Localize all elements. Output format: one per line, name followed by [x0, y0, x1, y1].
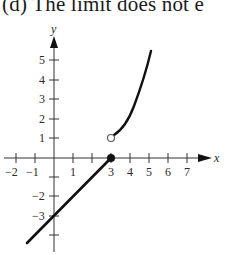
- graph: −2 −1 1 3 4 5 6 7 x 5 4 3 2 1 −2 −3 y: [0, 0, 232, 254]
- x-axis-label: x: [213, 151, 220, 165]
- x-tick-label: 6: [165, 165, 171, 179]
- curve-segment: [114, 51, 151, 135]
- y-tick-label: 2: [39, 112, 45, 126]
- y-axis-label: y: [50, 22, 57, 36]
- x-axis-arrow-icon: [198, 154, 212, 162]
- y-axis: 5 4 3 2 1 −2 −3 y: [32, 22, 59, 252]
- x-tick-label: 4: [127, 165, 133, 179]
- y-tick-label: −2: [32, 189, 45, 203]
- y-axis-arrow-icon: [50, 36, 58, 48]
- x-tick-label: −1: [26, 165, 39, 179]
- x-tick-label: 7: [184, 165, 190, 179]
- y-tick-label: −3: [32, 209, 45, 223]
- x-tick-label: 3: [108, 165, 114, 179]
- x-tick-label: 5: [146, 165, 152, 179]
- y-tick-label: 4: [39, 73, 45, 87]
- y-tick-label: 5: [39, 53, 45, 67]
- y-tick-label: 3: [39, 92, 45, 106]
- closed-endpoint-dot: [107, 154, 115, 162]
- y-tick-label: 1: [39, 131, 45, 145]
- x-tick-label: 1: [70, 165, 76, 179]
- x-tick-label: −2: [5, 165, 18, 179]
- open-endpoint-circle: [108, 135, 115, 142]
